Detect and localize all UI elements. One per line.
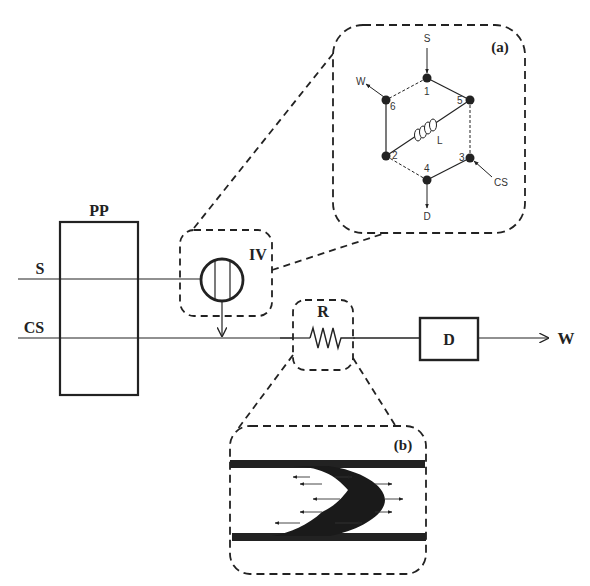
pump-label: PP bbox=[89, 202, 109, 219]
node-4-label: 4 bbox=[424, 163, 430, 174]
carrier-label: CS bbox=[24, 319, 45, 336]
port-s-label: S bbox=[424, 33, 431, 44]
flow-injection-diagram: PP S CS IV R D W (a) bbox=[0, 0, 590, 586]
inset-b-tag: (b) bbox=[394, 437, 412, 454]
reactor-label: R bbox=[317, 303, 329, 320]
injection-valve-icon bbox=[201, 259, 243, 301]
valve-label: IV bbox=[249, 246, 267, 263]
port-d-label: D bbox=[423, 211, 430, 222]
inset-b-flow-profile: (b) bbox=[230, 426, 426, 574]
node-3-label: 3 bbox=[459, 152, 465, 163]
waste-label: W bbox=[558, 329, 575, 348]
port-cs-label: CS bbox=[494, 177, 508, 188]
loop-label: L bbox=[437, 135, 443, 146]
node-6-label: 6 bbox=[390, 101, 396, 112]
node-2-label: 2 bbox=[392, 150, 398, 161]
node-5-label: 5 bbox=[457, 95, 463, 106]
port-w-label: W bbox=[356, 76, 366, 87]
sample-label: S bbox=[36, 260, 45, 277]
detector-label: D bbox=[443, 331, 455, 348]
inset-a-valve-detail: (a) L 1 2 3 4 5 6 S W bbox=[333, 25, 525, 233]
peristaltic-pump bbox=[60, 222, 138, 395]
inset-a-tag: (a) bbox=[491, 39, 509, 56]
node-1-label: 1 bbox=[424, 86, 430, 97]
